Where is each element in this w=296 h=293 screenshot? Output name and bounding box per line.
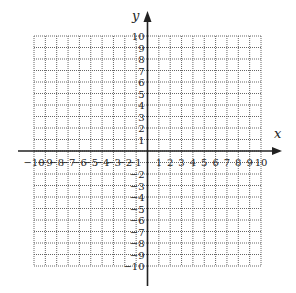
- y-tick-label: 8: [138, 54, 144, 65]
- x-tick-label: 2: [167, 157, 173, 168]
- y-tick-label: −7: [130, 227, 145, 238]
- x-tick-label: 8: [235, 157, 241, 168]
- y-tick-label: 4: [138, 100, 144, 111]
- coordinate-plane: −10−9−8−7−6−5−4−3−2−112345678910−10−9−8−…: [0, 0, 296, 293]
- y-axis-label: y: [131, 8, 140, 23]
- y-tick-label: 5: [138, 89, 144, 100]
- y-tick-label: 6: [138, 77, 144, 88]
- y-tick-label: −8: [130, 238, 145, 249]
- y-tick-label: −3: [130, 181, 145, 192]
- x-tick-label: 5: [201, 157, 207, 168]
- axes: [18, 11, 282, 286]
- y-tick-label: 2: [138, 123, 144, 134]
- y-tick-label: 7: [138, 66, 144, 77]
- x-axis-arrow-icon: [272, 147, 282, 155]
- y-tick-label: −9: [130, 250, 145, 261]
- y-tick-label: −10: [123, 261, 144, 272]
- y-tick-label: 10: [132, 31, 145, 42]
- y-tick-label: −5: [130, 204, 145, 215]
- y-tick-label: 9: [138, 43, 144, 54]
- y-tick-label: −4: [130, 192, 145, 203]
- x-tick-label: 1: [156, 157, 162, 168]
- x-tick-label: 4: [190, 157, 196, 168]
- x-tick-label: 9: [246, 157, 252, 168]
- x-axis-label: x: [274, 126, 282, 141]
- y-tick-label: −2: [130, 169, 145, 180]
- x-tick-label: 10: [255, 157, 268, 168]
- x-tick-label: 3: [178, 157, 184, 168]
- x-tick-label: 6: [212, 157, 218, 168]
- x-tick-label: 7: [224, 157, 230, 168]
- x-tick-label: −1: [127, 157, 142, 168]
- y-tick-label: −6: [130, 215, 145, 226]
- y-tick-label: 3: [138, 112, 144, 123]
- y-axis-arrow-icon: [144, 11, 152, 22]
- y-tick-label: 1: [138, 135, 144, 146]
